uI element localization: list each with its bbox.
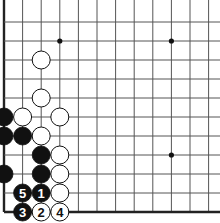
black-stone <box>32 165 50 183</box>
white-stone-icon <box>51 146 69 164</box>
star-point-icon <box>57 38 62 43</box>
move-number-label: 5 <box>19 186 26 201</box>
white-stone <box>51 108 69 126</box>
white-stone-icon <box>14 108 32 126</box>
white-stone-icon <box>32 127 50 145</box>
move-number-label: 4 <box>56 205 64 220</box>
black-stone-1: 1 <box>32 184 50 202</box>
white-stone-icon <box>32 89 50 107</box>
star-point-icon <box>169 38 174 43</box>
white-stone <box>51 165 69 183</box>
white-stone-2: 2 <box>32 203 50 221</box>
white-stone-icon <box>32 51 50 69</box>
black-stone <box>0 165 13 183</box>
black-stone-icon <box>0 165 13 183</box>
black-stone-icon <box>14 127 32 145</box>
white-stone <box>32 127 50 145</box>
black-stone <box>0 108 13 126</box>
move-number-label: 2 <box>38 205 45 220</box>
white-stone <box>32 89 50 107</box>
black-stone <box>0 127 13 145</box>
black-stone-icon <box>0 108 13 126</box>
move-number-label: 1 <box>38 186 45 201</box>
black-stone-icon <box>32 146 50 164</box>
black-stone-5: 5 <box>14 184 32 202</box>
white-stone <box>51 146 69 164</box>
white-stone <box>32 51 50 69</box>
black-stone <box>32 146 50 164</box>
white-stone-icon <box>51 108 69 126</box>
white-stone-icon <box>51 184 69 202</box>
white-stone <box>51 184 69 202</box>
go-board: 51324 <box>0 0 220 223</box>
white-stone-4: 4 <box>51 203 69 221</box>
black-stone-icon <box>0 127 13 145</box>
white-stone-icon <box>51 165 69 183</box>
black-stone-3: 3 <box>14 203 32 221</box>
move-number-label: 3 <box>19 205 26 220</box>
black-stone-icon <box>32 165 50 183</box>
black-stone <box>14 127 32 145</box>
white-stone <box>14 108 32 126</box>
star-point-icon <box>169 152 174 157</box>
